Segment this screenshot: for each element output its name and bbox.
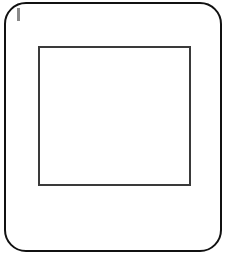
vertical-mark-icon (17, 8, 20, 21)
inner-rectangle (38, 46, 191, 186)
